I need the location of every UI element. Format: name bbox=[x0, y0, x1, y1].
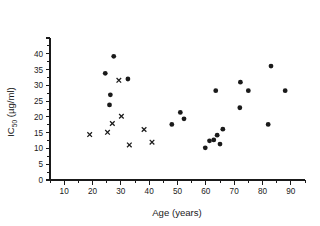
data-point-cross bbox=[150, 140, 155, 145]
data-point-circle bbox=[213, 88, 218, 93]
data-point-circle bbox=[220, 127, 225, 132]
x-axis-title: Age (years) bbox=[152, 207, 202, 218]
y-tick-label: 25 bbox=[34, 97, 44, 106]
data-point-cross bbox=[127, 143, 132, 148]
x-tick-group: 102030405060708090 bbox=[50, 180, 305, 196]
y-axis-title-base: IC bbox=[5, 127, 16, 137]
data-point-circle bbox=[211, 138, 216, 143]
data-point-cross bbox=[87, 132, 92, 137]
plot-canvas: 0510152025303540 102030405060708090 Age … bbox=[0, 0, 320, 226]
data-point-circle bbox=[203, 145, 208, 150]
x-tick-label: 10 bbox=[60, 187, 70, 196]
x-tick-label: 30 bbox=[116, 187, 126, 196]
x-tick-label: 70 bbox=[230, 187, 240, 196]
y-tick-label: 30 bbox=[34, 81, 44, 90]
data-point-circle bbox=[111, 54, 116, 59]
data-point-circle bbox=[246, 88, 251, 93]
x-tick-label: 80 bbox=[258, 187, 268, 196]
y-tick-label: 35 bbox=[34, 66, 44, 75]
data-point-circle bbox=[103, 71, 108, 76]
y-axis-title-group: IC50 (µg/ml) bbox=[5, 87, 18, 137]
data-point-circle bbox=[108, 92, 113, 97]
data-point-circle bbox=[169, 122, 174, 127]
y-tick-label: 5 bbox=[38, 160, 43, 169]
x-tick-label: 60 bbox=[201, 187, 211, 196]
y-tick-label: 15 bbox=[34, 129, 44, 138]
data-point-circle bbox=[215, 133, 220, 138]
data-point-circle bbox=[237, 105, 242, 110]
data-point-circle bbox=[126, 77, 131, 82]
x-tick-label: 20 bbox=[88, 187, 98, 196]
data-point-circle bbox=[238, 80, 243, 85]
y-tick-label: 10 bbox=[34, 144, 44, 153]
x-tick-label: 50 bbox=[173, 187, 183, 196]
scatter-plot-figure: 0510152025303540 102030405060708090 Age … bbox=[0, 0, 320, 226]
axes-group bbox=[50, 38, 305, 180]
x-tick-label: 90 bbox=[286, 187, 296, 196]
data-point-circle bbox=[182, 116, 187, 121]
x-tick-label: 40 bbox=[145, 187, 155, 196]
y-tick-label: 40 bbox=[34, 50, 44, 59]
data-point-cross bbox=[110, 121, 115, 126]
y-axis-title: IC50 (µg/ml) bbox=[5, 87, 18, 137]
data-point-circle bbox=[178, 110, 183, 115]
y-tick-label: 20 bbox=[34, 113, 44, 122]
y-tick-group: 0510152025303540 bbox=[34, 38, 50, 185]
data-point-circle bbox=[266, 122, 271, 127]
data-point-cross bbox=[119, 114, 124, 119]
data-point-cross bbox=[105, 130, 110, 135]
data-point-circle bbox=[218, 142, 223, 147]
data-points-group bbox=[87, 54, 287, 150]
data-point-cross bbox=[142, 127, 147, 132]
data-point-cross bbox=[117, 78, 122, 83]
data-point-circle bbox=[107, 102, 112, 107]
y-axis-title-unit: (µg/ml) bbox=[5, 87, 16, 120]
data-point-circle bbox=[269, 64, 274, 69]
y-tick-label: 0 bbox=[38, 176, 43, 185]
data-point-circle bbox=[207, 138, 212, 143]
data-point-circle bbox=[283, 88, 288, 93]
